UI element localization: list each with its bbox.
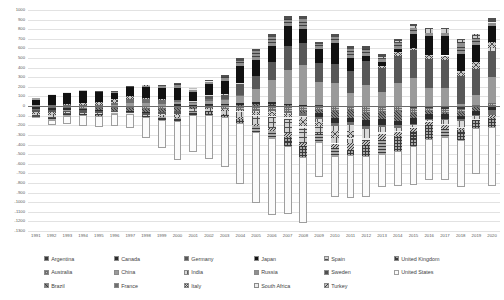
y-axis-tick-label: -300 bbox=[17, 133, 25, 137]
bar-segment-russia bbox=[174, 83, 182, 87]
bar-segment-sweden bbox=[221, 75, 229, 77]
legend-swatch-icon bbox=[44, 283, 49, 288]
legend-item-unitedstates[interactable]: United States bbox=[394, 269, 464, 275]
bar-segment-italy bbox=[472, 62, 480, 68]
bar-segment-spain bbox=[472, 36, 480, 39]
legend-swatch-icon bbox=[184, 256, 189, 261]
bar-segment-russia bbox=[362, 49, 370, 56]
x-axis-tick-label: 2011 bbox=[346, 233, 355, 238]
x-axis-tick-label: 1994 bbox=[78, 233, 88, 238]
bar-segment-italy bbox=[410, 48, 418, 51]
x-axis-tick-label: 2019 bbox=[472, 233, 482, 238]
bar-segment-russia bbox=[299, 19, 307, 29]
bar-segment-sweden bbox=[315, 42, 323, 45]
bar-segment-spain bbox=[299, 128, 307, 143]
bar-segment-sweden bbox=[174, 83, 182, 84]
bar-segment-china bbox=[268, 80, 276, 102]
y-axis-tick-label: 200 bbox=[18, 85, 25, 89]
bar-segment-sweden bbox=[236, 58, 244, 60]
bar-segment-southafrica bbox=[189, 89, 197, 90]
bar-segment-unitedstates bbox=[158, 120, 166, 148]
bar-segment-japan bbox=[425, 36, 433, 55]
bar-segment-germany bbox=[425, 59, 433, 88]
bar-segment-russia bbox=[488, 22, 496, 25]
bar-column bbox=[347, 10, 355, 231]
legend-item-australia[interactable]: Australia bbox=[44, 269, 114, 275]
bar-segment-brazil bbox=[362, 113, 370, 120]
bar-column bbox=[488, 10, 496, 231]
bar-segment-unitedkingdom bbox=[488, 118, 496, 127]
bar-segment-unitedstates bbox=[457, 140, 465, 187]
bar-segment-france bbox=[174, 100, 182, 102]
legend-label: Italy bbox=[191, 283, 201, 289]
legend-item-india[interactable]: India bbox=[184, 269, 254, 275]
bar-column bbox=[189, 10, 197, 231]
bar-segment-japan bbox=[205, 84, 213, 95]
bar-segment-unitedstates bbox=[189, 115, 197, 152]
x-axis-tick-label: 1998 bbox=[141, 233, 151, 238]
bar-segment-unitedstates bbox=[111, 114, 119, 126]
legend-item-spain[interactable]: Spain bbox=[324, 256, 394, 262]
legend-item-sweden[interactable]: Sweden bbox=[324, 269, 394, 275]
bar-segment-france bbox=[158, 100, 166, 104]
bar-segment-sweden bbox=[252, 49, 260, 51]
bar-segment-france bbox=[48, 105, 56, 106]
legend-label: India bbox=[191, 269, 203, 275]
bar-segment-spain bbox=[284, 119, 292, 133]
x-axis-tick-label: 2017 bbox=[440, 233, 450, 238]
bar-segment-unitedstates bbox=[174, 121, 182, 160]
bar-segment-unitedkingdom bbox=[472, 120, 480, 128]
legend-item-germany[interactable]: Germany bbox=[184, 256, 254, 262]
bar-segment-india bbox=[236, 83, 244, 84]
bar-column bbox=[174, 10, 182, 231]
bar-segment-germany bbox=[236, 83, 244, 95]
bar-segment-spain bbox=[457, 40, 465, 43]
bar-segment-unitedstates bbox=[410, 146, 418, 185]
bar-segment-canada bbox=[268, 102, 276, 104]
bar-segment-germany bbox=[205, 95, 213, 99]
legend-item-southafrica[interactable]: South Africa bbox=[254, 283, 324, 289]
bar-segment-china bbox=[299, 65, 307, 105]
bar-segment-italy bbox=[457, 71, 465, 76]
legend-swatch-icon bbox=[394, 270, 399, 275]
legend-item-turkey[interactable]: Turkey bbox=[324, 283, 394, 289]
x-axis-tick-label: 2015 bbox=[409, 233, 419, 238]
y-axis-tick-label: 500 bbox=[18, 56, 25, 60]
bar-segment-japan bbox=[111, 93, 119, 99]
bar-segment-spain bbox=[441, 29, 449, 32]
bar-segment-india bbox=[189, 101, 197, 102]
bar-segment-southafrica bbox=[48, 94, 56, 95]
bar-column bbox=[425, 10, 433, 231]
bar-segment-japan bbox=[142, 86, 150, 97]
legend-item-brazil[interactable]: Brazil bbox=[44, 283, 114, 289]
legend-item-china[interactable]: China bbox=[114, 269, 184, 275]
bar-segment-unitedstates bbox=[48, 120, 56, 125]
legend-swatch-icon bbox=[184, 283, 189, 288]
bar-segment-india bbox=[362, 129, 370, 138]
bar-segment-russia bbox=[111, 92, 119, 93]
bar-segment-china bbox=[174, 102, 182, 104]
bar-segment-unitedkingdom bbox=[315, 134, 323, 141]
bar-segment-germany bbox=[362, 61, 370, 85]
bar-segment-germany bbox=[472, 69, 480, 95]
y-axis-tick-label: -1000 bbox=[14, 200, 25, 204]
bar-column bbox=[457, 10, 465, 231]
bar-segment-germany bbox=[331, 64, 339, 83]
legend-item-italy[interactable]: Italy bbox=[184, 283, 254, 289]
legend-item-japan[interactable]: Japan bbox=[254, 256, 324, 262]
x-axis-tick-label: 1999 bbox=[157, 233, 167, 238]
bar-segment-germany bbox=[394, 56, 402, 83]
legend-item-argentina[interactable]: Argentina bbox=[44, 256, 114, 262]
legend-item-france[interactable]: France bbox=[114, 283, 184, 289]
bar-segment-unitedstates bbox=[205, 115, 213, 159]
legend-item-unitedkingdom[interactable]: United Kingdom bbox=[394, 256, 464, 262]
bar-segment-japan bbox=[331, 43, 339, 64]
legend-item-russia[interactable]: Russia bbox=[254, 269, 324, 275]
bar-segment-unitedstates bbox=[79, 115, 87, 127]
bar-segment-japan bbox=[95, 92, 103, 103]
x-axis-tick-label: 2001 bbox=[188, 233, 198, 238]
bar-column bbox=[268, 10, 276, 231]
legend-item-canada[interactable]: Canada bbox=[114, 256, 184, 262]
y-axis-tick-label: 800 bbox=[18, 27, 25, 31]
bar-segment-russia bbox=[378, 59, 386, 62]
